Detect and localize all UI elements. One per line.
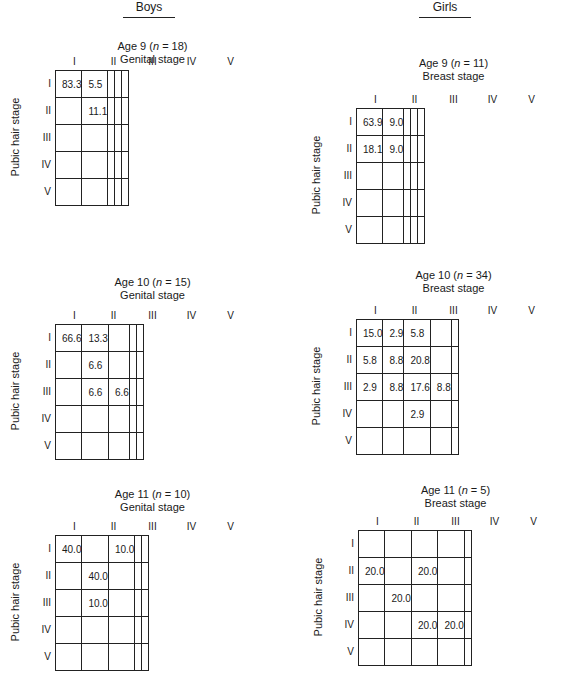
table-cell xyxy=(383,401,404,428)
table-cell xyxy=(82,125,108,152)
table-cell xyxy=(122,125,129,152)
column-stage-label: III xyxy=(436,516,475,527)
table-cell xyxy=(108,152,115,179)
y-axis-label: Pubic hair stage xyxy=(310,326,322,446)
column-stage-label: II xyxy=(395,305,434,316)
row-stage-label: III xyxy=(332,381,352,392)
cell-value: 63.9 xyxy=(357,117,382,128)
table-cell xyxy=(418,163,425,190)
table-cell xyxy=(411,639,437,666)
table-cell xyxy=(108,352,129,379)
column-stage-label: IV xyxy=(473,94,512,105)
table-cell xyxy=(56,379,82,406)
table-cell xyxy=(82,644,108,671)
table-cell xyxy=(411,531,437,558)
cell-value: 9.0 xyxy=(383,144,403,155)
table-row: 5.88.820.8 xyxy=(357,347,459,374)
table-cell xyxy=(129,352,136,379)
cell-value: 40.0 xyxy=(56,544,81,555)
table-row: 10.0 xyxy=(56,590,149,617)
table-cell: 10.0 xyxy=(108,536,134,563)
row-stage-label: IV xyxy=(334,619,354,630)
row-stage-label: I xyxy=(31,543,51,554)
row-stage-label: V xyxy=(334,646,354,657)
table-cell xyxy=(451,347,458,374)
percentage-grid: 15.02.95.85.88.820.82.98.817.68.82.9 xyxy=(356,319,459,455)
panel-title: Age 9 (n = 11)Breast stage xyxy=(356,57,551,83)
cell-value: 20.8 xyxy=(404,355,429,366)
table-cell xyxy=(142,590,149,617)
table-cell xyxy=(430,401,451,428)
table-cell xyxy=(136,352,143,379)
table-cell xyxy=(108,406,129,433)
table-cell: 8.8 xyxy=(383,347,404,374)
cell-value: 5.8 xyxy=(357,355,382,366)
table-cell xyxy=(108,433,129,460)
table-row: 20.020.0 xyxy=(359,558,472,585)
table-cell xyxy=(404,109,411,136)
table-row xyxy=(359,639,472,666)
table-cell: 2.9 xyxy=(383,320,404,347)
table-row xyxy=(56,125,129,152)
percentage-grid: 20.020.020.020.020.0 xyxy=(358,530,472,666)
table-cell xyxy=(56,352,82,379)
row-stage-label: IV xyxy=(31,624,51,635)
table-cell xyxy=(56,125,82,152)
row-stage-label: IV xyxy=(332,408,352,419)
table-cell xyxy=(430,347,451,374)
table-cell xyxy=(56,590,82,617)
table-cell xyxy=(383,217,404,244)
table-cell xyxy=(383,190,404,217)
row-stage-label: V xyxy=(31,440,51,451)
column-stage-label: IV xyxy=(172,310,211,321)
column-stage-label: II xyxy=(94,56,133,67)
table-cell xyxy=(411,136,418,163)
table-cell xyxy=(142,644,149,671)
cell-value: 20.0 xyxy=(412,620,437,631)
table-cell xyxy=(108,125,115,152)
table-cell xyxy=(357,163,383,190)
column-stage-label: II xyxy=(94,521,133,532)
y-axis-label: Pubic hair stage xyxy=(310,115,322,235)
table-row: 66.613.3 xyxy=(56,325,144,352)
row-stage-label: III xyxy=(332,170,352,181)
table-cell: 13.3 xyxy=(82,325,108,352)
table-cell xyxy=(385,639,411,666)
table-cell: 5.8 xyxy=(357,347,383,374)
table-cell xyxy=(357,190,383,217)
table-cell xyxy=(430,320,451,347)
table-cell xyxy=(122,98,129,125)
table-row: 20.0 xyxy=(359,585,472,612)
table-row xyxy=(56,406,144,433)
table-cell xyxy=(464,612,471,639)
table-cell: 5.8 xyxy=(404,320,430,347)
table-cell: 40.0 xyxy=(82,563,108,590)
table-cell xyxy=(404,428,430,455)
table-cell xyxy=(451,320,458,347)
table-cell: 5.5 xyxy=(82,71,108,98)
table-cell xyxy=(135,536,142,563)
table-cell: 83.3 xyxy=(56,71,82,98)
table-cell xyxy=(438,585,464,612)
table-cell: 20.0 xyxy=(438,612,464,639)
table-cell xyxy=(359,585,385,612)
column-stage-label: IV xyxy=(172,56,211,67)
table-cell xyxy=(357,401,383,428)
table-row xyxy=(56,179,129,206)
column-stage-label: II xyxy=(395,94,434,105)
table-cell xyxy=(136,433,143,460)
cell-value: 18.1 xyxy=(357,144,382,155)
table-cell xyxy=(56,433,82,460)
cell-value: 2.9 xyxy=(383,328,403,339)
table-cell xyxy=(411,217,418,244)
table-cell xyxy=(122,71,129,98)
table-cell: 9.0 xyxy=(383,136,404,163)
column-stage-label: III xyxy=(434,305,473,316)
column-stage-label: I xyxy=(358,516,397,527)
table-row xyxy=(56,152,129,179)
table-cell xyxy=(56,617,82,644)
table-cell xyxy=(451,428,458,455)
cell-value: 6.6 xyxy=(82,360,107,371)
percentage-grid: 83.35.511.1 xyxy=(55,70,129,206)
table-cell xyxy=(108,590,134,617)
